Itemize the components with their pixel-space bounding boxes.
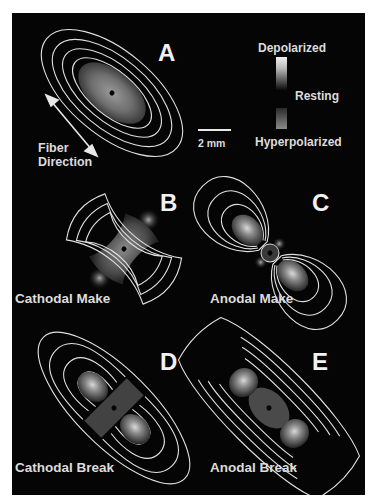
scale-bar-label: 2 mm xyxy=(198,137,225,149)
figure-graphics xyxy=(12,13,365,495)
legend-hyperpolarized: Hyperpolarized xyxy=(255,135,342,149)
fiber-direction-line2: Direction xyxy=(38,155,92,169)
panel-label-d: D xyxy=(160,348,177,376)
colorbar-hyperpolarized xyxy=(276,108,287,129)
fiber-direction-line1: Fiber xyxy=(38,141,92,155)
colorbar-depolarized xyxy=(276,57,287,90)
panel-label-c: C xyxy=(312,189,329,217)
panel-c-pattern xyxy=(181,164,360,343)
panel-label-e: E xyxy=(312,348,328,376)
legend-resting: Resting xyxy=(295,89,339,103)
panel-label-b: B xyxy=(160,189,177,217)
caption-anodal-make: Anodal Make xyxy=(210,291,293,306)
caption-cathodal-make: Cathodal Make xyxy=(15,291,110,306)
caption-anodal-break: Anodal Break xyxy=(210,460,297,475)
panel-label-a: A xyxy=(158,39,175,67)
fiber-direction-label: Fiber Direction xyxy=(38,141,92,169)
legend-depolarized: Depolarized xyxy=(258,41,326,55)
figure-panel: A B C D E Fiber Direction 2 mm Depolariz… xyxy=(12,13,365,495)
caption-cathodal-break: Cathodal Break xyxy=(15,460,114,475)
